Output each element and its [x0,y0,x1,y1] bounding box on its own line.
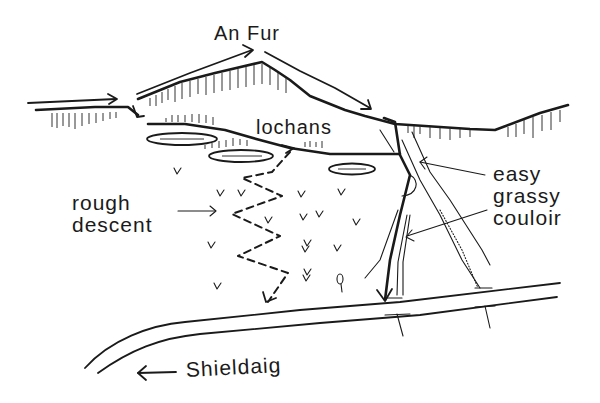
approach-arrow [28,94,117,104]
rough-descent-label-line1: rough [72,192,131,214]
road [85,283,560,373]
couloir-label-line2: grassy [493,185,561,207]
grass-tufts [174,168,360,289]
shieldaig-arrow [138,366,176,380]
rough-descent-path [232,152,290,302]
summit-label: An Fur [214,22,280,44]
left-ridge [36,106,144,129]
rough-descent-label-line2: descent [72,214,153,236]
tree-symbol [337,274,343,292]
couloir-label-line1: easy [493,163,541,185]
main-ridge [138,62,568,140]
rough-descent-pointer [178,206,216,216]
lochans-label: lochans [256,116,332,138]
couloir [365,118,492,301]
couloir-label-line3: couloir [493,207,562,229]
